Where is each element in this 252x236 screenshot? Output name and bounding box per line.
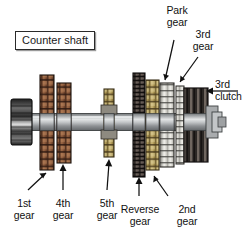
reverse-gear (133, 73, 145, 177)
label-third-clutch: 3rd clutch (215, 79, 252, 102)
second-gear (146, 80, 159, 170)
label-first-gear: 1st gear (7, 198, 41, 221)
third-gear (176, 86, 184, 164)
transmission-countershaft-diagram: Counter shaft Park gear 3rd gear 3rd clu… (0, 0, 252, 236)
counter-shaft-title-box: Counter shaft (15, 31, 95, 50)
label-fourth-gear: 4th gear (46, 198, 80, 221)
label-third-gear: 3rd gear (186, 29, 220, 52)
label-second-gear: 2nd gear (168, 204, 206, 227)
label-park-gear: Park gear (157, 5, 197, 28)
label-reverse-gear: Reverse gear (112, 204, 168, 227)
leader-park-gear (165, 40, 174, 80)
splined-hub (11, 99, 32, 145)
park-gear (160, 83, 174, 167)
first-gear (40, 75, 54, 170)
fourth-gear (57, 83, 71, 163)
leader-fifth-gear (107, 163, 109, 190)
